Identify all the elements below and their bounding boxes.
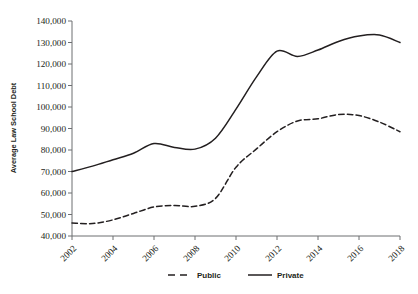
y-tick-label: 90,000 [41, 124, 67, 134]
y-tick-label: 70,000 [41, 167, 67, 177]
y-tick-label: 130,000 [36, 38, 66, 48]
y-tick-label: 40,000 [41, 231, 67, 241]
y-tick-label: 120,000 [36, 59, 66, 69]
line-chart-figure: Average Law School Debt 40,00050,00060,0… [0, 0, 418, 294]
y-tick-label: 80,000 [41, 145, 67, 155]
y-axis-title: Average Law School Debt [9, 82, 18, 173]
y-tick-label: 110,000 [36, 81, 66, 91]
y-tick-label: 140,000 [36, 16, 66, 26]
legend-label: Public [197, 271, 222, 280]
y-tick-label: 50,000 [41, 210, 67, 220]
y-tick-label: 100,000 [36, 102, 66, 112]
y-tick-label: 60,000 [41, 188, 67, 198]
legend-label: Private [277, 271, 304, 280]
